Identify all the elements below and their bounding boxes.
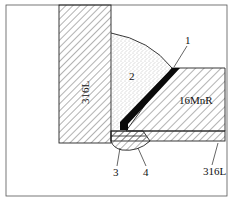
callout-3: 3 [113,166,119,178]
vertical-plate-316L [59,5,111,143]
label-horizontal-plate: 16MnR [179,94,213,106]
callout-1: 1 [185,34,191,46]
callout-2: 2 [129,70,135,82]
callout-4: 4 [143,166,149,178]
label-bottom-cladding: 316L [203,165,227,177]
weld-joint-diagram: 316L 16MnR 316L 1 2 3 4 [0,0,233,203]
label-vertical-plate: 316L [79,81,91,105]
